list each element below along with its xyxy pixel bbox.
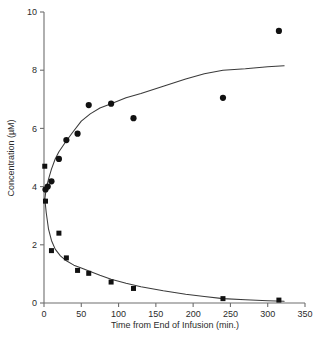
data-point-square [42, 164, 47, 169]
data-point-circle [45, 184, 51, 190]
data-point-square [49, 248, 54, 253]
data-point-circle [130, 115, 136, 121]
y-axis-title: Concentration (µM) [6, 119, 16, 196]
data-point-square [131, 286, 136, 291]
chart-figure: 0246810 050100150200250300350 Time from … [0, 0, 316, 345]
x-tick-label: 300 [260, 309, 275, 319]
x-tick-label: 100 [111, 309, 126, 319]
y-tick-label: 10 [27, 7, 37, 17]
x-tick-label: 350 [297, 309, 312, 319]
data-point-circle [220, 95, 226, 101]
data-point-circle [56, 156, 62, 162]
y-tick-label: 0 [32, 298, 37, 308]
data-point-square [276, 298, 281, 303]
x-tick-label: 250 [223, 309, 238, 319]
y-tick-label: 4 [32, 182, 37, 192]
data-point-square [43, 199, 48, 204]
x-axis-title: Time from End of Infusion (min.) [111, 320, 239, 330]
data-point-circle [63, 137, 69, 143]
concentration-vs-time-plot: 0246810 050100150200250300350 Time from … [0, 0, 316, 345]
data-point-square [86, 271, 91, 276]
x-tick-label: 50 [76, 309, 86, 319]
plot-background [0, 0, 316, 345]
y-tick-label: 6 [32, 124, 37, 134]
y-tick-label: 8 [32, 65, 37, 75]
data-point-square [56, 231, 61, 236]
x-tick-label: 150 [148, 309, 163, 319]
data-point-square [109, 280, 114, 285]
data-point-circle [108, 101, 114, 107]
data-point-circle [48, 178, 54, 184]
x-tick-label: 0 [41, 309, 46, 319]
data-point-circle [86, 102, 92, 108]
data-point-square [64, 255, 69, 260]
data-point-circle [74, 131, 80, 137]
x-tick-label: 200 [186, 309, 201, 319]
y-tick-label: 2 [32, 240, 37, 250]
data-point-circle [276, 28, 282, 34]
data-point-square [220, 296, 225, 301]
data-point-square [75, 268, 80, 273]
